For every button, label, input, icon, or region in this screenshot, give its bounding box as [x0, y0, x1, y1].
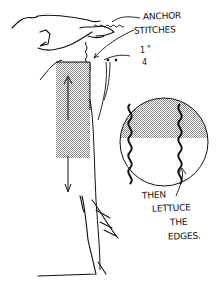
fraction-numerator: 1: [140, 46, 145, 55]
leader-lines: [94, 17, 140, 61]
illustration-drawing: [0, 0, 216, 292]
top-hand: [12, 15, 114, 50]
lettuce-label-2: LETTUCE: [152, 203, 191, 213]
lettuce-label-3: THE: [170, 218, 188, 228]
magnifier-circle: [120, 96, 210, 196]
lettuce-label-4: EDGES.: [168, 231, 201, 241]
anchor-label-1: ANCHOR: [143, 11, 181, 21]
sewing-illustration: ANCHOR STITCHES 1 " 4 THEN LETTUCE THE E…: [0, 0, 216, 292]
bottom-hand: [38, 196, 118, 276]
lettuce-label-1: THEN: [142, 191, 166, 201]
fraction-denominator: 4: [142, 58, 147, 67]
fraction-mark: ": [147, 45, 151, 54]
anchor-label-2: STITCHES: [134, 25, 176, 35]
fabric-strip: [40, 60, 110, 270]
